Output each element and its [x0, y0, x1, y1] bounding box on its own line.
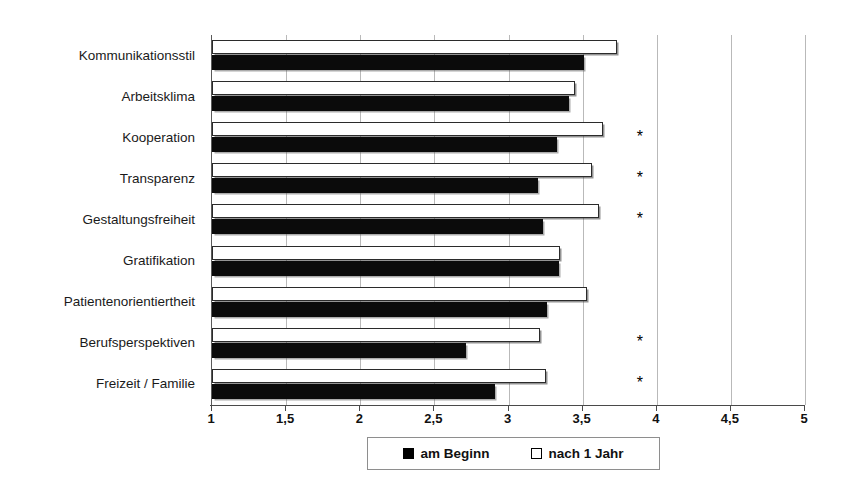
category-label: Transparenz: [0, 171, 195, 186]
category-label: Berufsperspektiven: [0, 335, 195, 350]
bar-am-beginn: [212, 261, 559, 276]
legend-item-am-beginn: am Beginn: [403, 446, 489, 461]
significance-star-icon: *: [632, 170, 648, 186]
chart-legend: am Beginn nach 1 Jahr: [367, 437, 660, 470]
plot-area: [211, 35, 806, 405]
category-label: Gratifikation: [0, 253, 195, 268]
bar-am-beginn: [212, 219, 543, 234]
significance-star-icon: *: [632, 334, 648, 350]
x-axis-tick-label: 1: [191, 411, 231, 426]
bar-nach-1-jahr: [212, 204, 599, 218]
bar-am-beginn: [212, 178, 538, 193]
x-axis-tick-label: 3: [488, 411, 528, 426]
category-axis-labels: KommunikationsstilArbeitsklimaKooperatio…: [0, 35, 203, 405]
bar-am-beginn: [212, 137, 557, 152]
legend-label-am-beginn: am Beginn: [420, 446, 489, 461]
bar-chart: KommunikationsstilArbeitsklimaKooperatio…: [0, 0, 859, 494]
bar-am-beginn: [212, 384, 495, 399]
bar-am-beginn: [212, 343, 466, 358]
gridline: [657, 35, 658, 405]
significance-star-icon: *: [632, 211, 648, 227]
category-label: Freizeit / Familie: [0, 376, 195, 391]
legend-swatch-filled-icon: [403, 448, 414, 459]
bar-am-beginn: [212, 55, 584, 70]
bar-nach-1-jahr: [212, 287, 587, 301]
x-axis-tick-label: 1,5: [265, 411, 305, 426]
legend-label-nach-1-jahr: nach 1 Jahr: [548, 446, 623, 461]
x-axis-tick-label: 4: [636, 411, 676, 426]
category-label: Gestaltungsfreiheit: [0, 212, 195, 227]
bar-nach-1-jahr: [212, 246, 560, 260]
significance-star-icon: *: [632, 129, 648, 145]
category-label: Arbeitsklima: [0, 89, 195, 104]
legend-swatch-hollow-icon: [531, 448, 542, 459]
bar-nach-1-jahr: [212, 81, 575, 95]
category-label: Kooperation: [0, 130, 195, 145]
gridline: [805, 35, 806, 405]
bar-nach-1-jahr: [212, 122, 603, 136]
bar-nach-1-jahr: [212, 163, 592, 177]
x-axis-tick-label: 4,5: [710, 411, 750, 426]
legend-item-nach-1-jahr: nach 1 Jahr: [531, 446, 623, 461]
category-label: Patientenorientiertheit: [0, 294, 195, 309]
gridline: [731, 35, 732, 405]
bar-am-beginn: [212, 302, 547, 317]
category-label: Kommunikationsstil: [0, 48, 195, 63]
bar-am-beginn: [212, 96, 569, 111]
bar-nach-1-jahr: [212, 369, 546, 383]
significance-star-icon: *: [632, 375, 648, 391]
x-axis-tick-label: 5: [784, 411, 824, 426]
bar-nach-1-jahr: [212, 328, 540, 342]
gridline: [583, 35, 584, 405]
bar-nach-1-jahr: [212, 40, 617, 54]
x-axis-tick-label: 3,5: [562, 411, 602, 426]
x-axis-tick-label: 2: [339, 411, 379, 426]
x-axis-tick-label: 2,5: [413, 411, 453, 426]
